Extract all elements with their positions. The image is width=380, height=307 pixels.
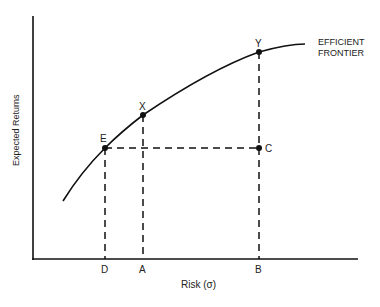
point-label-e: E [100, 133, 107, 144]
point-label-x: X [139, 101, 146, 112]
efficient-frontier-diagram: E X Y C D A B EFFICIENT FRONTIER Risk (σ… [0, 0, 380, 307]
point-y [256, 49, 262, 55]
point-c [256, 145, 262, 151]
point-x [140, 112, 146, 118]
point-label-c: C [265, 143, 272, 154]
point-label-y: Y [255, 38, 262, 49]
y-axis-title: Expected Returns [11, 94, 21, 166]
tick-label-d: D [101, 264, 108, 275]
tick-label-b: B [255, 264, 262, 275]
efficient-frontier-curve [63, 44, 305, 201]
x-axis-title: Risk (σ) [181, 279, 216, 290]
tick-label-a: A [139, 264, 146, 275]
point-e [102, 145, 108, 151]
curve-label-line2: FRONTIER [318, 48, 364, 58]
curve-label-line1: EFFICIENT [318, 37, 365, 47]
